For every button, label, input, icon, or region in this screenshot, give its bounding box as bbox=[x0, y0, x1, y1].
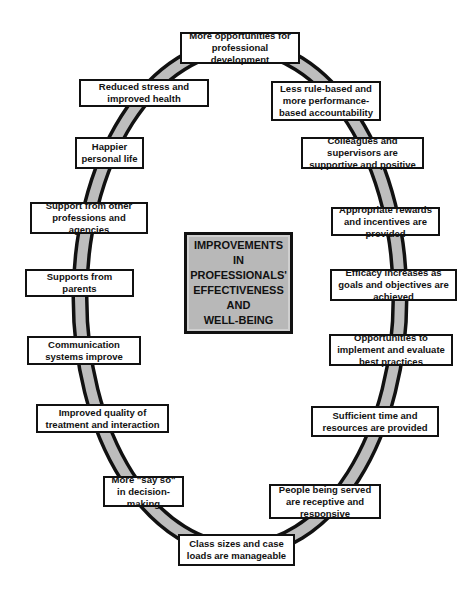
node-label: Support from other professions and agenc… bbox=[35, 200, 143, 236]
node-best-practices: Opportunities to implement and evaluate … bbox=[329, 334, 453, 366]
node-label: More opportunities for professional deve… bbox=[185, 30, 295, 66]
node-label: Communication systems improve bbox=[32, 339, 136, 363]
node-rewards: Appropriate rewards and incentives are p… bbox=[331, 207, 440, 236]
node-people-served: People being served are receptive and re… bbox=[269, 484, 381, 519]
node-label: Class sizes and case loads are manageabl… bbox=[183, 538, 290, 562]
node-label: Efficacy increases as goals and objectiv… bbox=[335, 267, 452, 303]
node-label: Less rule-based and more performance-bas… bbox=[276, 83, 376, 119]
node-support-other: Support from other professions and agenc… bbox=[30, 202, 148, 234]
node-parents: Supports from parents bbox=[25, 269, 134, 297]
node-say-so: More "say so" in decision-making bbox=[103, 476, 184, 507]
node-label: Appropriate rewards and incentives are p… bbox=[336, 204, 435, 240]
node-top: More opportunities for professional deve… bbox=[180, 32, 300, 64]
node-communication: Communication systems improve bbox=[27, 336, 141, 365]
node-reduced-stress: Reduced stress and improved health bbox=[79, 79, 209, 107]
center-title: IMPROVEMENTS IN PROFESSIONALS' EFFECTIVE… bbox=[190, 238, 287, 328]
node-label: More "say so" in decision-making bbox=[108, 474, 179, 510]
node-label: Reduced stress and improved health bbox=[84, 81, 204, 105]
center-title-box: IMPROVEMENTS IN PROFESSIONALS' EFFECTIVE… bbox=[184, 232, 293, 334]
node-label: Opportunities to implement and evaluate … bbox=[334, 332, 448, 368]
node-label: Colleagues and supervisors are supportiv… bbox=[306, 135, 419, 171]
node-quality: Improved quality of treatment and intera… bbox=[36, 404, 169, 433]
node-label: People being served are receptive and re… bbox=[274, 484, 376, 520]
node-colleagues: Colleagues and supervisors are supportiv… bbox=[301, 137, 424, 169]
node-time: Sufficient time and resources are provid… bbox=[311, 406, 439, 437]
node-happier: Happier personal life bbox=[75, 137, 144, 169]
node-efficacy: Efficacy increases as goals and objectiv… bbox=[330, 269, 457, 301]
node-label: Happier personal life bbox=[80, 141, 139, 165]
node-less-rule: Less rule-based and more performance-bas… bbox=[271, 81, 381, 121]
node-label: Improved quality of treatment and intera… bbox=[41, 407, 164, 431]
node-class-sizes: Class sizes and case loads are manageabl… bbox=[178, 534, 295, 566]
node-label: Supports from parents bbox=[30, 271, 129, 295]
node-label: Sufficient time and resources are provid… bbox=[316, 410, 434, 434]
